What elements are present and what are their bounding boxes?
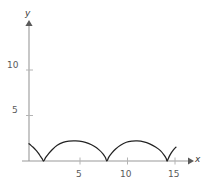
x-axis-tick-label-5: 5	[76, 170, 82, 179]
y-axis-title: y	[25, 9, 30, 18]
x-axis-tick-label-10: 10	[120, 170, 131, 179]
x-axis-arrowhead	[188, 157, 194, 164]
y-axis-tick-label-5: 5	[12, 106, 18, 115]
cycloid-curve	[29, 141, 176, 161]
y-axis-arrowhead	[25, 20, 32, 26]
x-axis-title: x	[195, 155, 200, 164]
y-axis-tick-label-10: 10	[7, 61, 18, 70]
x-axis-tick-label-15: 15	[168, 170, 179, 179]
plot-canvas	[0, 0, 208, 193]
cycloid-chart-figure: 10 5 5 10 15 y x	[0, 0, 208, 193]
